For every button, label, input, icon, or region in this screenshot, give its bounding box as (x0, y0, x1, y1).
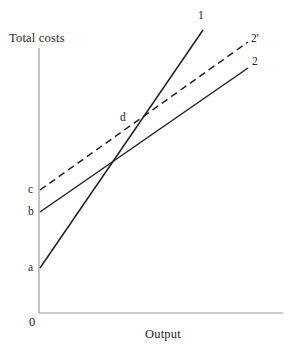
chart-plot-area (0, 0, 300, 352)
y-axis-label: Total costs (9, 32, 65, 45)
series-end-label-1: 1 (198, 10, 204, 22)
annotation-label-a: a (28, 262, 33, 274)
x-axis-label: Output (145, 328, 181, 341)
series-line-2 (40, 68, 248, 212)
annotation-label-d: d (120, 112, 126, 124)
chart-figure: Total costs Output 0 a b c d 1 2' 2 (0, 0, 300, 352)
series-line-1 (40, 30, 203, 268)
series-end-label-2-prime: 2' (251, 33, 259, 45)
annotation-label-c: c (28, 184, 33, 196)
annotation-label-b: b (28, 206, 34, 218)
series-end-label-2: 2 (252, 56, 258, 68)
origin-label: 0 (29, 316, 35, 329)
